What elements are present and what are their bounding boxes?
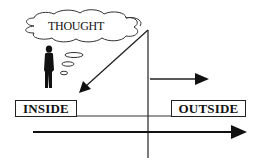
- inside-label: INSIDE: [15, 100, 77, 117]
- bottom-arrow-icon: [33, 125, 247, 139]
- thought-trail-bubbles-icon: [61, 53, 84, 75]
- thought-label: THOUGHT: [40, 19, 112, 34]
- diagram-canvas: [0, 0, 256, 165]
- upper-arrow-icon: [150, 73, 209, 85]
- person-silhouette-icon: [44, 46, 54, 89]
- outside-label: OUTSIDE: [171, 100, 246, 117]
- inside-outside-diagram: THOUGHT INSIDE OUTSIDE: [0, 0, 256, 165]
